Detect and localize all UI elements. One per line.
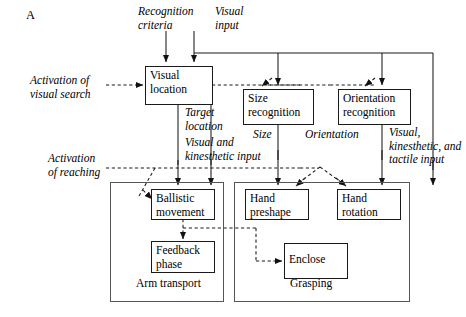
- node-hand-rotation[interactable]: Hand rotation: [337, 189, 401, 220]
- activation-label-reaching: Activation of reaching: [48, 152, 100, 179]
- input-label-recognition-criteria: Recognition criteria: [138, 5, 194, 32]
- edge-label-visual-kinesthetic-tactile-input: Visual, kinesthetic, and tactile input: [389, 126, 461, 167]
- node-visual-location[interactable]: Visual location: [145, 66, 213, 105]
- edge-label-target-location: Target location: [185, 106, 223, 133]
- node-size-recognition[interactable]: Size recognition: [243, 89, 314, 125]
- panel-letter: A: [26, 8, 35, 23]
- edge-label-visual-kinesthetic-input: Visual and kinesthetic input: [185, 136, 261, 163]
- figure-canvas: A Recognition criteria Visual input Acti…: [0, 0, 466, 317]
- node-ballistic-movement[interactable]: Ballistic movement: [151, 189, 215, 220]
- node-hand-preshape[interactable]: Hand preshape: [245, 189, 309, 220]
- edge-label-orientation: Orientation: [305, 128, 359, 142]
- node-orientation-recognition[interactable]: Orientation recognition: [338, 89, 411, 125]
- node-enclose[interactable]: Enclose: [284, 243, 348, 279]
- group-label-arm-transport: Arm transport: [136, 277, 201, 289]
- input-label-visual-input: Visual input: [215, 5, 244, 32]
- activation-label-visual-search: Activation of visual search: [30, 74, 91, 101]
- node-feedback-phase[interactable]: Feedback phase: [151, 241, 215, 273]
- edge-label-size: Size: [253, 128, 272, 142]
